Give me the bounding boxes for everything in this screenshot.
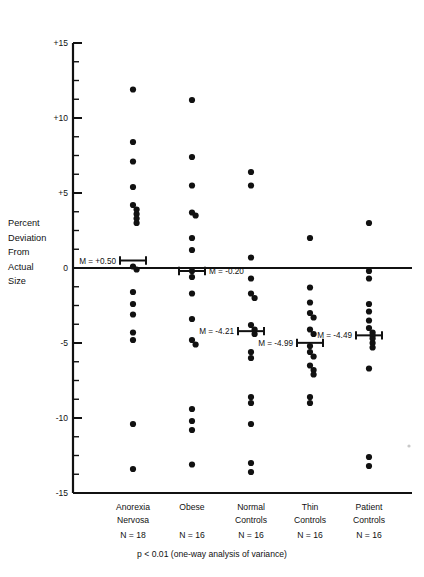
data-point bbox=[189, 316, 195, 322]
data-point bbox=[248, 182, 254, 188]
data-point bbox=[189, 97, 195, 103]
data-point bbox=[307, 299, 313, 305]
data-point bbox=[248, 254, 254, 260]
data-point bbox=[366, 463, 372, 469]
data-point bbox=[366, 454, 372, 460]
data-point bbox=[248, 169, 254, 175]
data-point bbox=[311, 353, 317, 359]
category-n-label: N = 16 bbox=[356, 530, 382, 540]
data-point bbox=[189, 154, 195, 160]
category-n-label: N = 18 bbox=[120, 530, 146, 540]
data-point bbox=[307, 394, 313, 400]
category-label-line1: Anorexia bbox=[116, 502, 150, 512]
category-label-line1: Thin bbox=[302, 502, 319, 512]
data-point bbox=[130, 311, 136, 317]
y-tick-label: -5 bbox=[60, 338, 68, 348]
category-label-line2: Controls bbox=[353, 515, 385, 525]
mean-value-label: M = +0.50 bbox=[79, 257, 116, 266]
data-point bbox=[189, 235, 195, 241]
y-tick-label: -10 bbox=[56, 413, 69, 423]
data-point bbox=[189, 418, 195, 424]
data-point bbox=[130, 289, 136, 295]
data-point bbox=[189, 247, 195, 253]
data-point bbox=[366, 220, 372, 226]
data-point bbox=[130, 86, 136, 92]
data-point bbox=[189, 406, 195, 412]
y-tick-label: +10 bbox=[54, 113, 69, 123]
y-axis-label-line: From bbox=[8, 247, 30, 257]
data-point bbox=[130, 421, 136, 427]
data-point bbox=[366, 275, 372, 281]
data-point bbox=[248, 275, 254, 281]
category-n-label: N = 16 bbox=[179, 530, 205, 540]
data-point bbox=[193, 341, 199, 347]
data-point bbox=[130, 158, 136, 164]
data-point bbox=[307, 235, 313, 241]
data-point bbox=[307, 400, 313, 406]
figure-container: +15+10+50-5-10-15PercentDeviationFromAct… bbox=[0, 0, 424, 577]
scan-speck bbox=[407, 444, 410, 447]
data-point bbox=[130, 139, 136, 145]
data-point bbox=[134, 220, 140, 226]
data-point bbox=[248, 421, 254, 427]
y-tick-label: +5 bbox=[58, 188, 68, 198]
category-label-line1: Normal bbox=[237, 502, 265, 512]
y-tick-label: 0 bbox=[63, 263, 68, 273]
data-point bbox=[311, 314, 317, 320]
data-point bbox=[130, 184, 136, 190]
data-point bbox=[248, 460, 254, 466]
mean-value-label: M = -4.99 bbox=[258, 339, 293, 348]
mean-value-label: M = -4.49 bbox=[317, 331, 352, 340]
mean-value-label: M = -0.20 bbox=[209, 267, 244, 276]
data-point bbox=[366, 308, 372, 314]
data-point bbox=[248, 469, 254, 475]
category-label-line2: Nervosa bbox=[117, 515, 149, 525]
data-point bbox=[311, 371, 317, 377]
data-point bbox=[252, 295, 258, 301]
data-point bbox=[366, 365, 372, 371]
data-point bbox=[130, 337, 136, 343]
category-label-line2: Controls bbox=[294, 515, 326, 525]
mean-value-label: M = -4.21 bbox=[199, 327, 234, 336]
y-axis-label-line: Size bbox=[8, 276, 26, 286]
data-point bbox=[130, 466, 136, 472]
data-point bbox=[134, 266, 140, 272]
data-point bbox=[366, 301, 372, 307]
category-n-label: N = 16 bbox=[297, 530, 323, 540]
data-point bbox=[189, 274, 195, 280]
data-point bbox=[366, 317, 372, 323]
data-point bbox=[248, 355, 254, 361]
data-point bbox=[130, 301, 136, 307]
data-point bbox=[366, 268, 372, 274]
data-point bbox=[248, 349, 254, 355]
scatter-plot-svg: +15+10+50-5-10-15PercentDeviationFromAct… bbox=[0, 0, 424, 577]
y-axis-label-line: Deviation bbox=[8, 233, 46, 243]
data-point bbox=[370, 344, 376, 350]
category-label-line1: Obese bbox=[179, 502, 205, 512]
data-point bbox=[189, 461, 195, 467]
data-point bbox=[248, 400, 254, 406]
data-point bbox=[130, 329, 136, 335]
footnote-text: p < 0.01 (one-way analysis of variance) bbox=[137, 549, 287, 559]
y-tick-label: -15 bbox=[56, 488, 69, 498]
y-axis-label-line: Percent bbox=[8, 218, 40, 228]
y-tick-label: +15 bbox=[54, 38, 69, 48]
data-point bbox=[193, 212, 199, 218]
data-point bbox=[189, 427, 195, 433]
data-point bbox=[189, 182, 195, 188]
category-label-line2: Controls bbox=[235, 515, 267, 525]
category-label-line1: Patient bbox=[356, 502, 383, 512]
data-point bbox=[248, 394, 254, 400]
data-point bbox=[307, 284, 313, 290]
category-n-label: N = 16 bbox=[238, 530, 264, 540]
data-point bbox=[311, 331, 317, 337]
data-point bbox=[189, 290, 195, 296]
y-axis-label-line: Actual bbox=[8, 262, 34, 272]
